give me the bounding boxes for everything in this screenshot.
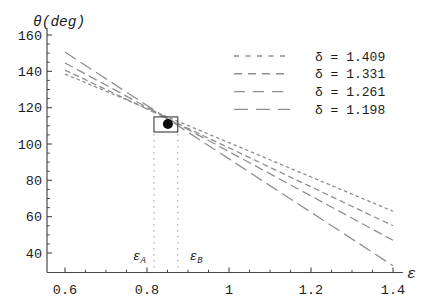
chart-svg: εAεB0.60.811.21.4406080100120140160θ(deg… <box>0 0 433 307</box>
epsilon-axis-label: ε <box>407 266 416 283</box>
legend-entry-delta-1.409: δ = 1.409 <box>315 50 385 65</box>
x-tick-label-0.6: 0.6 <box>53 283 77 298</box>
x-tick-label-1: 1 <box>225 283 233 298</box>
guide-label-epsilon-b: εB <box>190 250 204 266</box>
legend-entry-delta-1.261: δ = 1.261 <box>315 85 385 100</box>
y-tick-label-160: 160 <box>18 29 42 44</box>
theta-axis-label: θ(deg) <box>33 14 85 30</box>
x-tick-label-0.8: 0.8 <box>135 283 159 298</box>
guide-label-epsilon-a: εA <box>133 250 146 266</box>
y-tick-label-80: 80 <box>26 174 42 189</box>
y-tick-label-140: 140 <box>18 65 42 80</box>
legend-entry-delta-1.331: δ = 1.331 <box>315 67 385 82</box>
y-tick-label-120: 120 <box>18 101 42 116</box>
crossing-point-marker <box>163 119 173 129</box>
y-tick-label-100: 100 <box>18 138 42 153</box>
legend-entry-delta-1.198: δ = 1.198 <box>315 103 385 118</box>
x-tick-label-1.4: 1.4 <box>381 283 405 298</box>
y-tick-label-40: 40 <box>26 247 42 262</box>
plot-figure: εAεB0.60.811.21.4406080100120140160θ(deg… <box>0 0 433 307</box>
y-tick-label-60: 60 <box>26 210 42 225</box>
x-tick-label-1.2: 1.2 <box>299 283 323 298</box>
